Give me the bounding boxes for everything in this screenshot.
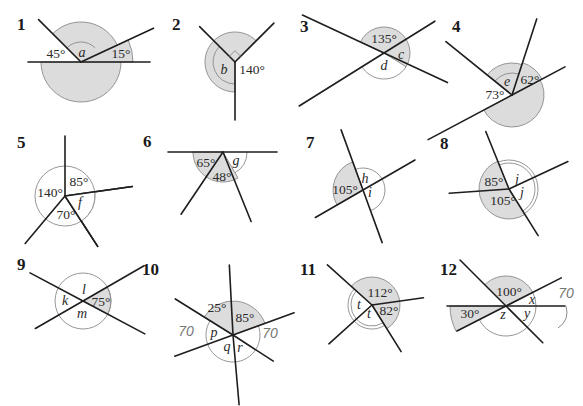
unknown-angle-label: k [62,293,69,308]
angle-label: 48° [213,169,232,184]
angle-label: 70° [57,207,76,222]
problem-3: 3135°cd [299,15,447,106]
problem-9: 9kl75°m [17,255,145,334]
problem-7: 7105°hi [306,130,415,243]
unknown-angle-label: y [522,306,531,321]
question-number: 2 [172,15,181,34]
problem-1: 145°a15° [17,15,154,102]
unknown-angle-label: x [528,292,536,307]
unknown-angle-label: d [381,58,389,73]
unknown-angle-label: m [77,306,87,321]
question-number: 12 [440,260,457,279]
ray-line [35,301,83,329]
handwritten-note: 70 [558,285,574,301]
question-number: 5 [17,133,26,152]
angle-label: 15° [112,46,131,61]
angle-worksheet: 145°a15°2b140°3135°cd4e62°73°5140°85°f70… [0,0,583,406]
question-number: 1 [17,15,26,34]
angle-label: 100° [496,284,522,299]
angle-label: 135° [371,31,397,46]
ray-line [384,53,447,83]
angle-label: 105° [490,193,516,208]
problem-10: 1025°85°pqr7070 [142,260,294,405]
angle-label: 105° [332,182,358,197]
problem-4: 4e62°73° [428,17,565,140]
angle-label: 30° [461,306,480,321]
problem-2: 2b140° [172,15,274,120]
question-number: 11 [300,260,316,279]
unknown-angle-label: c [398,47,405,62]
ray-line [363,190,382,243]
unknown-angle-label: i [368,185,372,200]
angle-label: 85° [485,174,504,189]
unknown-angle-label: j [513,172,519,187]
handwritten-arrow [558,306,567,328]
ray-line [329,305,372,344]
problem-12: 12100°x30°zy70 [440,260,574,343]
question-number: 10 [142,260,159,279]
unknown-angle-label: r [237,340,243,355]
unknown-angle-label: b [221,62,228,77]
unknown-angle-label: h [362,171,369,186]
unknown-angle-label: p [210,325,218,340]
unknown-angle-label: l [82,282,86,297]
question-number: 9 [17,255,26,274]
angle-label: 45° [47,46,66,61]
question-number: 7 [306,133,315,152]
angle-label: 73° [486,87,505,102]
question-number: 8 [440,134,449,153]
angle-label: 65° [197,155,216,170]
question-number: 4 [452,17,461,36]
angle-label: 75° [92,294,111,309]
problem-6: 665°g48° [143,132,277,222]
problem-8: 885°jj105° [440,132,568,236]
question-number: 3 [300,17,309,36]
unknown-angle-label: t [367,306,372,321]
angle-label: 85° [70,174,89,189]
handwritten-note: 70 [262,325,278,341]
problem-11: 11112°tt82° [300,260,423,352]
unknown-angle-label: z [499,307,506,322]
unknown-angle-label: g [233,153,240,168]
angle-label: 25° [208,300,227,315]
unknown-angle-label: t [357,297,362,312]
unknown-angle-label: j [518,185,524,200]
ray-line [299,53,384,106]
unknown-angle-label: q [224,339,231,354]
angle-label: 85° [236,310,255,325]
unknown-angle-label: a [79,45,86,60]
unknown-angle-label: e [504,74,510,89]
handwritten-note: 70 [178,323,194,339]
question-number: 6 [143,132,152,151]
problem-5: 5140°85°f70° [17,133,132,246]
angle-label: 112° [367,285,392,300]
angle-label: 140° [239,62,265,77]
angle-label: 62° [521,72,540,87]
angle-label: 82° [380,303,399,318]
ray-line [30,273,83,301]
angle-label: 140° [37,185,63,200]
